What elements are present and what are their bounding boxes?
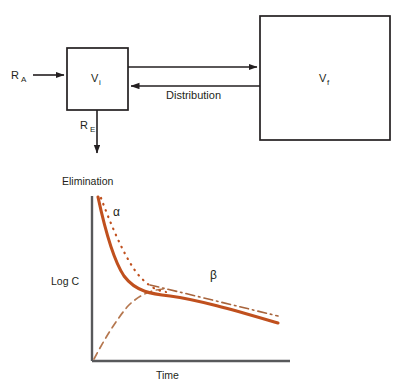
input-rate-label: R: [11, 69, 19, 81]
input-rate-subscript: A: [21, 75, 27, 84]
alpha-annotation: α: [113, 205, 120, 219]
elimination-rate-label: R: [80, 119, 88, 131]
beta-annotation: β: [210, 268, 217, 282]
central-compartment-label: V: [91, 72, 99, 84]
elimination-rate-subscript: E: [90, 125, 95, 134]
distribution-label: Distribution: [166, 89, 221, 101]
y-axis-label: Log C: [51, 275, 79, 287]
x-axis-label: Time: [156, 369, 179, 381]
peripheral-compartment-label: V: [319, 72, 327, 84]
central-compartment-subscript: i: [99, 78, 101, 87]
chart-title: Elimination: [62, 175, 114, 187]
pharmacokinetic-figure: R A V i V f Distribution R E Elimination: [0, 0, 401, 389]
